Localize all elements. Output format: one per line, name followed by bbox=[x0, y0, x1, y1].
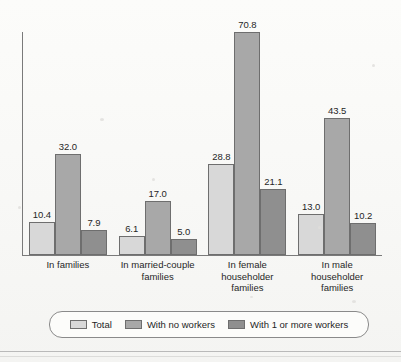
scan-speckle bbox=[372, 64, 375, 67]
legend-swatch-icon bbox=[228, 320, 245, 329]
category-label-line: families bbox=[113, 271, 203, 283]
bar-with-no-workers[interactable] bbox=[55, 154, 81, 255]
legend-entry[interactable]: Total bbox=[70, 319, 112, 330]
bar-total[interactable] bbox=[29, 222, 55, 255]
category-label-line: In families bbox=[23, 259, 113, 271]
bar-with-no-workers[interactable] bbox=[234, 32, 260, 255]
bar-value-label: 21.1 bbox=[264, 176, 282, 187]
legend-label: Total bbox=[92, 319, 112, 330]
bar-value-label: 32.0 bbox=[59, 141, 77, 152]
bar-with-no-workers[interactable] bbox=[145, 201, 171, 255]
bar-total[interactable] bbox=[208, 164, 234, 255]
legend-entry[interactable]: With 1 or more workers bbox=[228, 319, 348, 330]
bar-group: 10.432.07.9 bbox=[29, 32, 107, 255]
category-label: In married-couplefamilies bbox=[113, 259, 203, 282]
bar-value-label: 10.4 bbox=[33, 209, 51, 220]
bar-slot: 13.0 bbox=[298, 32, 324, 255]
bar-slot: 7.9 bbox=[81, 32, 107, 255]
bar-slot: 70.8 bbox=[234, 32, 260, 255]
page-divider-rule bbox=[0, 351, 401, 352]
bar-with-1-or-more-workers[interactable] bbox=[81, 230, 107, 255]
bar-slot: 5.0 bbox=[171, 32, 197, 255]
bar-with-no-workers[interactable] bbox=[324, 118, 350, 255]
bar-value-label: 6.1 bbox=[125, 223, 138, 234]
bar-group: 6.117.05.0 bbox=[119, 32, 197, 255]
bar-slot: 43.5 bbox=[324, 32, 350, 255]
plot-area: 10.432.07.96.117.05.028.870.821.113.043.… bbox=[23, 32, 382, 255]
category-label-line: householder bbox=[292, 271, 382, 283]
category-label-line: In female bbox=[203, 259, 293, 271]
legend-label: With 1 or more workers bbox=[250, 319, 348, 330]
scan-speckle bbox=[18, 206, 21, 209]
bar-value-label: 28.8 bbox=[212, 151, 230, 162]
legend-label: With no workers bbox=[147, 319, 215, 330]
category-label: In families bbox=[23, 259, 113, 271]
bar-value-label: 7.9 bbox=[87, 217, 100, 228]
legend-entry[interactable]: With no workers bbox=[125, 319, 215, 330]
page-divider-rule-secondary bbox=[0, 356, 401, 357]
bar-total[interactable] bbox=[119, 236, 145, 255]
scan-speckle bbox=[100, 118, 104, 121]
category-label-line: In married-couple bbox=[113, 259, 203, 271]
bar-total[interactable] bbox=[298, 214, 324, 255]
x-axis-line bbox=[22, 255, 382, 256]
legend-swatch-icon bbox=[125, 320, 142, 329]
bar-slot: 28.8 bbox=[208, 32, 234, 255]
scan-speckle bbox=[352, 300, 356, 303]
bar-value-label: 70.8 bbox=[238, 19, 256, 30]
bar-slot: 32.0 bbox=[55, 32, 81, 255]
bar-slot: 10.4 bbox=[29, 32, 55, 255]
bar-value-label: 10.2 bbox=[354, 210, 372, 221]
grouped-bar-chart: 10.432.07.96.117.05.028.870.821.113.043.… bbox=[0, 0, 401, 300]
bar-slot: 21.1 bbox=[260, 32, 286, 255]
category-label: In femalehouseholderfamilies bbox=[203, 259, 293, 294]
bar-slot: 6.1 bbox=[119, 32, 145, 255]
bar-with-1-or-more-workers[interactable] bbox=[260, 189, 286, 255]
bar-value-label: 17.0 bbox=[149, 188, 167, 199]
bar-group: 13.043.510.2 bbox=[298, 32, 376, 255]
bar-value-label: 5.0 bbox=[177, 226, 190, 237]
bar-group: 28.870.821.1 bbox=[208, 32, 286, 255]
category-label: In malehouseholderfamilies bbox=[292, 259, 382, 294]
category-label-line: In male bbox=[292, 259, 382, 271]
chart-legend: TotalWith no workersWith 1 or more worke… bbox=[49, 311, 369, 338]
x-axis-category-labels: In familiesIn married-couplefamiliesIn f… bbox=[23, 259, 382, 305]
category-label-line: householder bbox=[203, 271, 293, 283]
legend-swatch-icon bbox=[70, 320, 87, 329]
scan-speckle bbox=[152, 178, 155, 181]
bar-value-label: 43.5 bbox=[328, 105, 346, 116]
bar-with-1-or-more-workers[interactable] bbox=[171, 239, 197, 255]
category-label-line: families bbox=[292, 282, 382, 294]
bar-value-label: 13.0 bbox=[302, 201, 320, 212]
bar-with-1-or-more-workers[interactable] bbox=[350, 223, 376, 255]
category-label-line: families bbox=[203, 282, 293, 294]
bar-slot: 17.0 bbox=[145, 32, 171, 255]
scan-speckle bbox=[318, 226, 321, 229]
scan-speckle bbox=[250, 296, 253, 298]
